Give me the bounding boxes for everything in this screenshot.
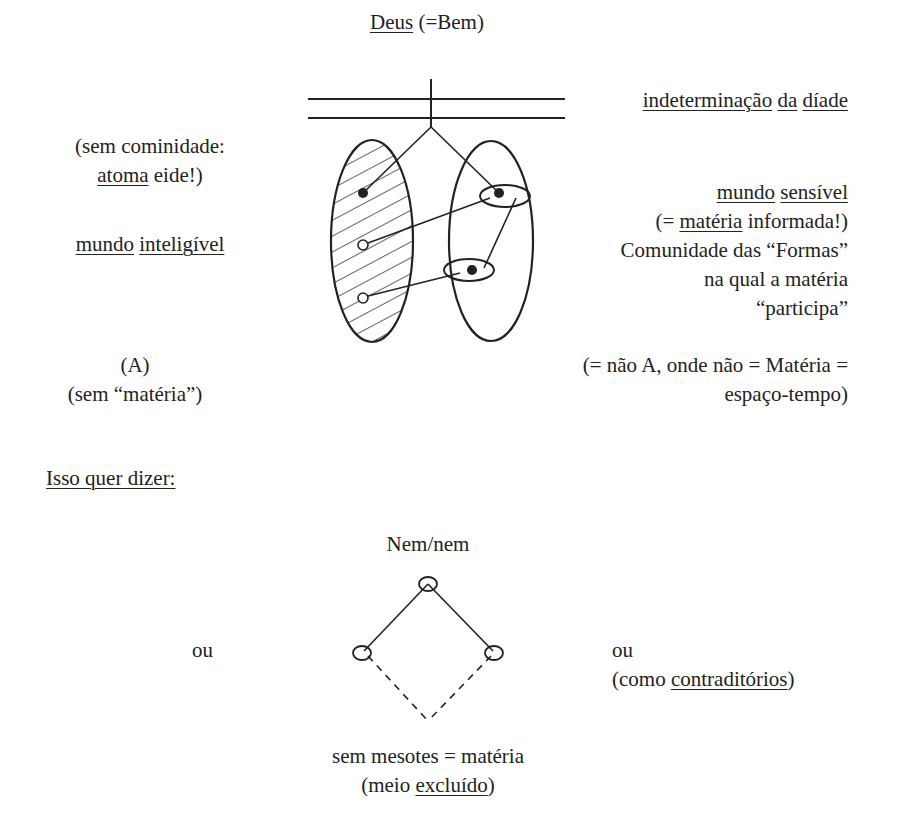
- isso-quer-dizer-heading: Isso quer dizer:: [46, 464, 175, 493]
- a-label-block: (A) (sem “matéria”): [50, 351, 220, 409]
- deus-label: Deus (=Bem): [370, 8, 484, 37]
- filled-participation-dot: [494, 188, 504, 198]
- ou-right-label: ou: [612, 636, 795, 665]
- filled-form-dot: [358, 188, 368, 198]
- ou-left-label: ou: [192, 636, 213, 665]
- diagram-graphics: [0, 0, 914, 840]
- hollow-form-dot: [358, 240, 368, 250]
- sem-materia-note: (sem “matéria”): [50, 380, 220, 409]
- filled-participation-dot: [467, 265, 477, 275]
- mesotes-note: sem mesotes = matéria (meio excluído): [278, 742, 578, 800]
- sensible-world-ellipse: [449, 141, 533, 341]
- nao-a-note: (= não A, onde não = Matéria = espaço-te…: [583, 351, 848, 409]
- atoma-eide-note: (sem cominidade: atoma eide!): [70, 132, 230, 190]
- nem-nem-diamond: [353, 577, 503, 721]
- intelligible-world-label: mundo inteligível: [40, 230, 260, 259]
- double-line-divider: [308, 79, 565, 127]
- contradictories-block: ou (como contraditórios): [612, 636, 795, 694]
- sensible-world-block: mundo sensível (= matéria informada!) Co…: [621, 178, 848, 323]
- deus-word: Deus: [370, 10, 413, 34]
- participation-ellipse-upper: [480, 185, 530, 207]
- hollow-form-dot: [358, 293, 368, 303]
- nem-nem-label: Nem/nem: [348, 530, 508, 559]
- a-label: (A): [50, 351, 220, 380]
- indeterminacy-of-dyad-label: indeterminação da díade: [643, 86, 848, 115]
